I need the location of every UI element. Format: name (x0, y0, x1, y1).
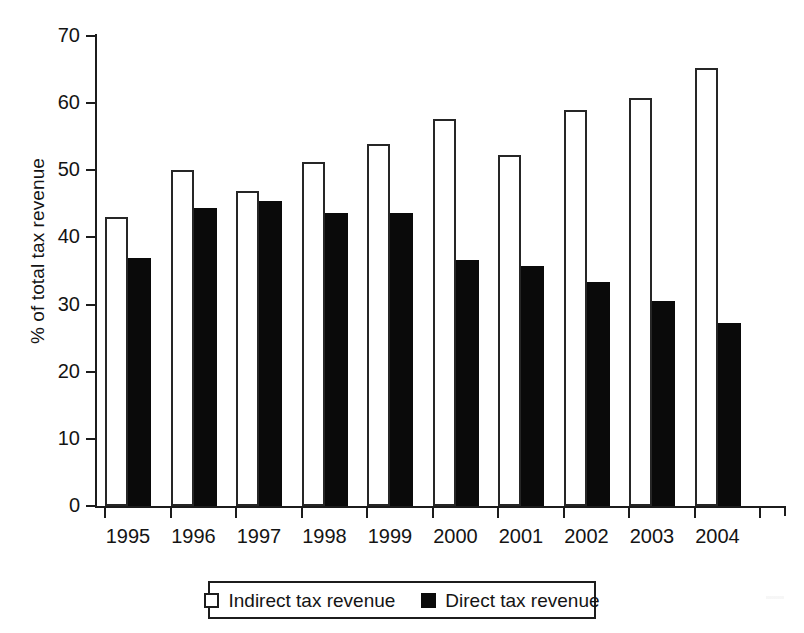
x-axis-tick (235, 507, 237, 518)
x-axis-tick (432, 507, 434, 518)
x-axis-tick-label-2003: 2003 (617, 524, 687, 548)
y-axis-tick (86, 304, 95, 306)
y-axis-tick-label-wrap: 10 (20, 428, 80, 448)
x-axis-tick-label-2004: 2004 (683, 524, 753, 548)
x-axis-tick-label-1996: 1996 (159, 524, 229, 548)
x-axis-tick-label-1997: 1997 (224, 524, 294, 548)
bar-1998-direct (325, 213, 348, 506)
y-axis-tick-label-wrap: 30 (20, 294, 80, 314)
x-axis-tick-label-2002: 2002 (552, 524, 622, 548)
bar-1998-indirect (302, 162, 325, 506)
x-axis-tick-label-2000: 2000 (421, 524, 491, 548)
legend-label: Direct tax revenue (445, 591, 599, 610)
y-axis-tick (86, 371, 95, 373)
y-axis-tick (86, 438, 95, 440)
y-axis-tick (86, 35, 95, 37)
x-axis-tick (694, 507, 696, 518)
y-axis-tick-label: 50 (36, 159, 80, 179)
bar-1997-direct (259, 201, 282, 506)
y-axis-tick-label: 40 (36, 226, 80, 246)
scan-artifact (766, 596, 784, 622)
y-axis-tick (86, 102, 95, 104)
legend-label: Indirect tax revenue (228, 591, 395, 610)
chart-legend: Indirect tax revenueDirect tax revenue (208, 581, 596, 619)
bar-1997-indirect (236, 191, 259, 506)
bar-1999-direct (390, 213, 413, 506)
y-axis-tick-label: 60 (36, 92, 80, 112)
bar-chart-figure: % of total tax revenue 010203040506070 1… (0, 0, 804, 633)
y-axis-tick-label: 10 (36, 428, 80, 448)
y-axis-tick (86, 505, 95, 507)
x-axis-tick (759, 507, 761, 518)
x-axis-tick (628, 507, 630, 518)
y-axis-tick-label-wrap: 50 (20, 159, 80, 179)
y-axis-tick-label: 20 (36, 361, 80, 381)
y-axis-tick-label-wrap: 70 (20, 25, 80, 45)
open-square-icon (204, 593, 219, 608)
x-axis-tick (104, 507, 106, 518)
bar-2002-direct (587, 282, 610, 506)
x-axis-tick-label-1995: 1995 (93, 524, 163, 548)
bar-2000-direct (456, 260, 479, 506)
x-axis-tick (563, 507, 565, 518)
bar-1995-direct (128, 258, 151, 506)
y-axis-tick-label-wrap: 40 (20, 226, 80, 246)
x-axis-tick (366, 507, 368, 518)
bar-2002-indirect (564, 110, 587, 506)
plot-area (95, 36, 785, 506)
y-axis-tick-label: 0 (36, 495, 80, 515)
x-axis-tick-label-2001: 2001 (486, 524, 556, 548)
bar-2001-direct (521, 266, 544, 506)
filled-square-icon (421, 593, 436, 608)
bar-2001-indirect (498, 155, 521, 506)
x-axis-tick-label-1998: 1998 (290, 524, 360, 548)
bar-1996-direct (194, 208, 217, 506)
bar-2004-indirect (695, 68, 718, 506)
bar-2004-direct (718, 323, 741, 506)
bar-1996-indirect (171, 170, 194, 506)
bar-2000-indirect (433, 119, 456, 506)
x-axis-tick (301, 507, 303, 518)
x-axis-tick (497, 507, 499, 518)
y-axis-tick (86, 169, 95, 171)
bar-2003-direct (652, 301, 675, 506)
bar-1995-indirect (105, 217, 128, 506)
y-axis-tick-label-wrap: 20 (20, 361, 80, 381)
y-axis-tick-label: 30 (36, 294, 80, 314)
x-axis-line (95, 506, 786, 508)
y-axis-tick-label-wrap: 60 (20, 92, 80, 112)
bar-1999-indirect (367, 144, 390, 506)
y-axis-tick-label: 70 (36, 25, 80, 45)
legend-entry-indirect: Indirect tax revenue (204, 591, 395, 610)
legend-entry-direct: Direct tax revenue (421, 591, 599, 610)
x-axis-tick-label-1999: 1999 (355, 524, 425, 548)
y-axis-tick-label-wrap: 0 (20, 495, 80, 515)
y-axis-tick (86, 236, 95, 238)
bar-2003-indirect (629, 98, 652, 506)
x-axis-tick (170, 507, 172, 518)
x-axis-end-tick (784, 506, 786, 516)
